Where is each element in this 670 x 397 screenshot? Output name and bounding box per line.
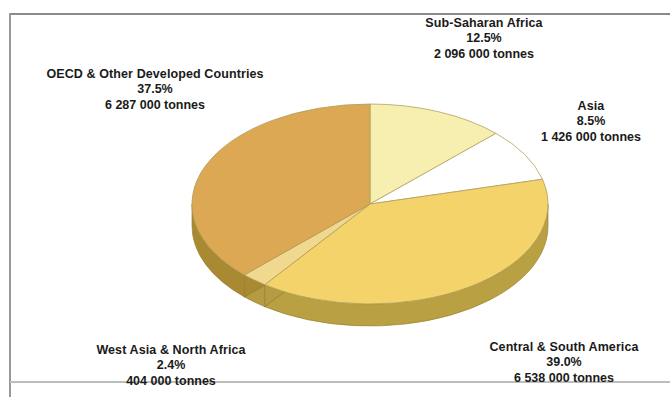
slice-label-name: Central & South America	[466, 340, 662, 355]
slice-label-name: Sub-Saharan Africa	[389, 16, 579, 31]
slice-label-west-asia-north-africa: West Asia & North Africa 2.4% 404 000 to…	[56, 343, 286, 389]
slice-label-percent: 2.4%	[56, 358, 286, 373]
slice-label-percent: 37.5%	[12, 82, 298, 97]
slice-label-value: 1 426 000 tonnes	[520, 130, 662, 145]
slice-label-sub-saharan-africa: Sub-Saharan Africa 12.5% 2 096 000 tonne…	[389, 16, 579, 62]
slice-label-value: 6 287 000 tonnes	[12, 98, 298, 113]
slice-label-percent: 39.0%	[466, 355, 662, 370]
slice-label-oecd: OECD & Other Developed Countries 37.5% 6…	[12, 67, 298, 113]
slice-label-name: Asia	[520, 99, 662, 114]
slice-label-value: 6 538 000 tonnes	[466, 371, 662, 386]
slice-label-percent: 12.5%	[389, 31, 579, 46]
slice-label-value: 2 096 000 tonnes	[389, 47, 579, 62]
pie-top-surface	[192, 104, 548, 304]
slice-label-central-south-america: Central & South America 39.0% 6 538 000 …	[466, 340, 662, 386]
slice-label-name: OECD & Other Developed Countries	[12, 67, 298, 82]
slice-label-name: West Asia & North Africa	[56, 343, 286, 358]
slice-label-percent: 8.5%	[520, 114, 662, 129]
slice-label-value: 404 000 tonnes	[56, 374, 286, 389]
slice-label-asia: Asia 8.5% 1 426 000 tonnes	[520, 99, 662, 145]
